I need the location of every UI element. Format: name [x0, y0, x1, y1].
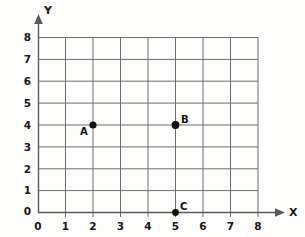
y-tick-0: 0 — [17, 206, 31, 217]
point-B-dot — [172, 121, 180, 129]
y-axis-arrowhead — [34, 14, 43, 24]
x-tick-4: 4 — [141, 221, 155, 232]
y-tick-5: 5 — [17, 98, 31, 109]
x-tick-2: 2 — [86, 221, 100, 232]
x-tick-6: 6 — [196, 221, 210, 232]
x-tick-5: 5 — [169, 221, 183, 232]
y-tick-2: 2 — [17, 164, 31, 175]
x-axis-arrowhead — [275, 208, 285, 217]
y-tick-1: 1 — [17, 185, 31, 196]
x-tick-0: 0 — [31, 221, 45, 232]
coordinate-grid-svg — [0, 0, 305, 237]
point-A-dot — [89, 121, 96, 128]
x-tick-7: 7 — [224, 221, 238, 232]
y-tick-6: 6 — [17, 76, 31, 87]
x-tick-1: 1 — [59, 221, 73, 232]
y-tick-7: 7 — [17, 54, 31, 65]
y-tick-3: 3 — [17, 142, 31, 153]
axis-lines — [38, 18, 281, 213]
coordinate-plane-figure: Y X 8 7 6 5 4 3 2 1 0 0 1 2 3 4 5 6 7 8 … — [0, 0, 305, 237]
point-label-B: B — [181, 115, 189, 125]
y-axis-label: Y — [44, 5, 52, 16]
point-label-C: C — [180, 202, 187, 212]
point-C-dot — [172, 209, 179, 216]
y-tick-4: 4 — [17, 120, 31, 131]
y-tick-8: 8 — [17, 32, 31, 43]
point-label-A: A — [80, 127, 88, 137]
x-tick-3: 3 — [114, 221, 128, 232]
x-axis-label: X — [289, 207, 297, 218]
x-tick-8: 8 — [251, 221, 265, 232]
